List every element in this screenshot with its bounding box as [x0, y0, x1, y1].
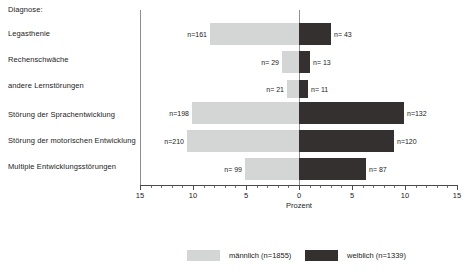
bar-label-female-2: n= 11	[308, 86, 328, 93]
bar-female-3[interactable]	[299, 102, 404, 124]
x-tick-minor	[363, 186, 364, 188]
x-axis-title: Prozent	[286, 201, 312, 210]
bar-male-3[interactable]	[192, 102, 299, 124]
category-label-4: Störung der motorischen Entwicklung	[8, 136, 136, 145]
chart-legend: männlich (n=1855) weiblich (n=1339)	[0, 248, 467, 270]
x-tick-minor	[172, 186, 173, 188]
bar-female-1[interactable]	[299, 51, 310, 73]
plot-area: 15 10 5 0 5 10 15 Prozent n=161 n= 43 n=…	[140, 10, 458, 185]
bar-label-male-4: n=210	[164, 138, 187, 145]
category-axis: Diagnose: Legasthenie Rechenschwäche and…	[8, 0, 134, 185]
x-tick-major-10r	[405, 186, 406, 190]
bar-label-female-1: n= 13	[310, 59, 331, 66]
bar-label-female-4: n=120	[394, 138, 417, 145]
bar-female-0[interactable]	[299, 23, 331, 45]
x-tick-major-15r	[457, 186, 458, 190]
bar-label-male-3: n=198	[169, 110, 192, 117]
bar-row: n=210 n=120	[140, 130, 458, 152]
bar-male-4[interactable]	[187, 130, 299, 152]
bar-label-female-0: n= 43	[331, 31, 352, 38]
x-tick-minor	[341, 186, 342, 188]
x-tick-major-15l	[140, 186, 141, 190]
x-tick-label-5: 10	[401, 191, 409, 200]
x-tick-minor	[416, 186, 417, 188]
bar-label-male-5: n= 99	[224, 166, 245, 173]
bar-male-2[interactable]	[287, 80, 299, 98]
x-tick-label-1: 10	[189, 191, 197, 200]
x-tick-minor	[394, 186, 395, 188]
legend-swatch-female-icon	[305, 250, 338, 261]
x-tick-minor	[310, 186, 311, 188]
category-axis-title: Diagnose:	[8, 5, 43, 14]
x-tick-major-5l	[246, 186, 247, 190]
bar-label-female-5: n= 87	[366, 166, 387, 173]
x-tick-major-5r	[352, 186, 353, 190]
x-tick-minor	[214, 186, 215, 188]
bar-row: n= 21 n= 11	[140, 80, 458, 98]
bar-label-male-0: n=161	[187, 31, 210, 38]
x-tick-minor	[320, 186, 321, 188]
bar-female-4[interactable]	[299, 130, 394, 152]
bar-label-male-2: n= 21	[266, 86, 287, 93]
x-tick-minor	[235, 186, 236, 188]
x-tick-label-0: 15	[136, 191, 144, 200]
x-tick-minor	[288, 186, 289, 188]
x-tick-minor	[437, 186, 438, 188]
legend-label-male: männlich (n=1855)	[229, 251, 291, 260]
x-tick-label-2: 5	[244, 191, 248, 200]
bar-label-female-3: n=132	[404, 110, 427, 117]
x-tick-minor	[447, 186, 448, 188]
legend-swatch-male-icon	[187, 250, 220, 261]
x-tick-minor	[267, 186, 268, 188]
x-tick-minor	[161, 186, 162, 188]
bar-male-0[interactable]	[210, 23, 299, 45]
x-tick-minor	[278, 186, 279, 188]
x-tick-minor	[426, 186, 427, 188]
legend-label-female: weiblich (n=1339)	[347, 251, 406, 260]
x-tick-minor	[204, 186, 205, 188]
x-tick-label-6: 15	[453, 191, 461, 200]
x-tick-minor	[384, 186, 385, 188]
legend-item-female[interactable]: weiblich (n=1339)	[305, 248, 406, 262]
x-tick-major-10l	[193, 186, 194, 190]
bar-row: n= 29 n= 13	[140, 51, 458, 73]
x-tick-minor	[151, 186, 152, 188]
category-label-3: Störung der Sprachentwicklung	[8, 110, 115, 119]
chart-figure: Diagnose: Legasthenie Rechenschwäche and…	[0, 0, 467, 278]
bar-row: n=161 n= 43	[140, 23, 458, 45]
bar-male-1[interactable]	[282, 51, 299, 73]
x-tick-minor	[182, 186, 183, 188]
category-label-1: Rechenschwäche	[8, 55, 69, 64]
bar-male-5[interactable]	[245, 158, 299, 180]
x-tick-major-0	[299, 186, 300, 190]
category-label-2: andere Lernstörungen	[8, 81, 84, 90]
bar-label-male-1: n= 29	[261, 59, 282, 66]
x-tick-label-4: 5	[350, 191, 354, 200]
x-tick-minor	[225, 186, 226, 188]
bar-female-2[interactable]	[299, 80, 308, 98]
x-tick-minor	[331, 186, 332, 188]
bar-row: n=198 n=132	[140, 102, 458, 124]
category-label-5: Multiple Entwicklungsstörungen	[8, 162, 116, 171]
x-tick-label-3: 0	[297, 191, 301, 200]
x-tick-minor	[373, 186, 374, 188]
x-tick-minor	[257, 186, 258, 188]
category-label-0: Legasthenie	[8, 29, 50, 38]
bar-female-5[interactable]	[299, 158, 366, 180]
bar-row: n= 99 n= 87	[140, 158, 458, 180]
legend-item-male[interactable]: männlich (n=1855)	[187, 248, 291, 262]
